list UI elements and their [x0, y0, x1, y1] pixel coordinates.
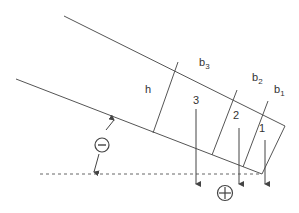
negative-arrow-down	[94, 154, 99, 172]
slip-surface-line	[16, 79, 262, 174]
slice-number-2: 2	[233, 109, 239, 121]
slice-divider-middle	[212, 90, 237, 155]
height-label: h	[145, 83, 151, 95]
negative-sign-icon	[95, 138, 109, 152]
width-label-b2: b2	[252, 71, 263, 86]
slice-number-3: 3	[193, 94, 199, 106]
positive-sign-icon	[218, 186, 233, 201]
width-label-b1: b1	[274, 83, 285, 98]
slice-number-1: 1	[259, 122, 265, 134]
negative-arrow-up	[106, 120, 114, 130]
width-label-b3: b3	[199, 56, 210, 71]
slice-divider-left	[153, 62, 178, 133]
slope-slices-diagram: h b3 b2 b1 3 2 1	[0, 0, 299, 213]
